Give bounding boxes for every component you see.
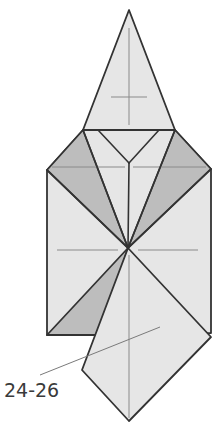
diagram-canvas [0, 0, 222, 440]
center-spine [128, 163, 129, 248]
step-number-label: 24-26 [4, 381, 59, 400]
